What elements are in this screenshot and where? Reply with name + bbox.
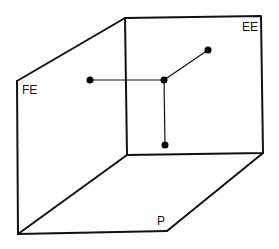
p-projection-point [162,142,169,149]
edge-floor-back-left [18,155,127,234]
center-point [161,77,168,84]
fe-projection-point [87,77,94,84]
edge-top-left [17,18,125,81]
edge-floor-right [167,153,263,231]
label-front-face: FE [22,84,37,96]
edge-floor-front [18,231,167,234]
connector-to-p [164,80,165,145]
diagram-canvas [0,0,279,249]
edge-front-vertical [17,81,18,234]
connector-to-ee [164,50,208,80]
label-floor: P [157,215,165,227]
ee-projection-point [205,47,212,54]
back-face-ee [125,16,263,155]
label-back-face: EE [242,21,258,33]
